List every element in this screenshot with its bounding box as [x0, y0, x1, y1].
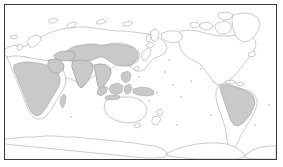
island-dot [164, 71, 165, 72]
island-dot [200, 68, 201, 69]
shaded-java [105, 95, 120, 100]
island-dot [190, 80, 191, 81]
island-dot [138, 76, 139, 77]
island-dot [172, 84, 173, 85]
world-map-figure [0, 0, 283, 167]
island-dot [156, 92, 157, 93]
world-map-svg [5, 5, 276, 159]
island-dot [268, 104, 269, 105]
island-dot [70, 116, 71, 117]
map-frame-border [4, 4, 277, 160]
island-dot [176, 124, 177, 125]
island-dot [180, 96, 181, 97]
island-dot [148, 100, 149, 101]
island-dot [210, 114, 211, 115]
island-dot [168, 59, 169, 60]
island-dot [254, 124, 255, 125]
